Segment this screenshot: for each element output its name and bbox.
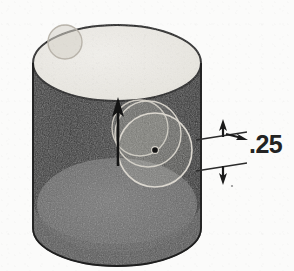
dimension-extension-line-bottom bbox=[196, 163, 247, 171]
extrude-depth-dimension[interactable] bbox=[196, 119, 248, 187]
sketch-center-point[interactable] bbox=[152, 147, 159, 154]
extrude-depth-dimension-value[interactable]: .25 bbox=[249, 132, 282, 157]
dimension-leader-arrow-icon bbox=[226, 133, 248, 140]
dimension-down-arrow-icon bbox=[219, 166, 227, 185]
dimension-up-arrow-icon bbox=[219, 119, 227, 137]
sketch-circle-rim[interactable] bbox=[48, 25, 82, 59]
diagram-canvas: .25 bbox=[0, 0, 294, 271]
dimension-tick-speck bbox=[231, 185, 233, 187]
